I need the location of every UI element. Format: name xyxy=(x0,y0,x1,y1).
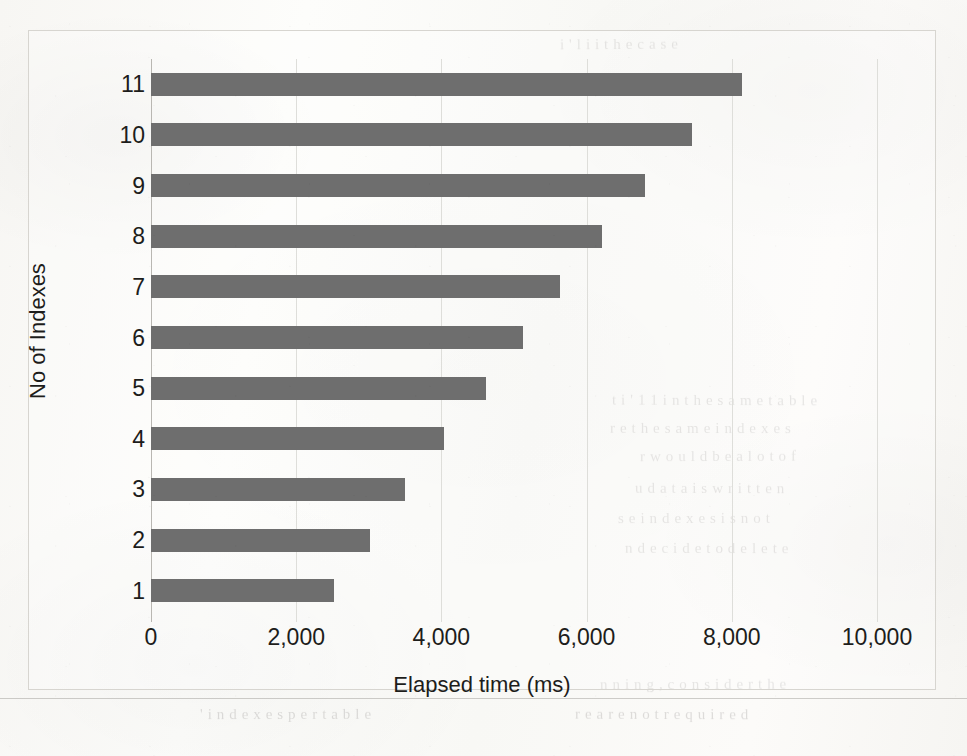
x-axis-tick-label: 4,000 xyxy=(413,624,471,651)
bar-row xyxy=(151,478,877,501)
bar-row xyxy=(151,529,877,552)
bar xyxy=(151,377,486,400)
y-axis-tick-labels: 1234567891011 xyxy=(73,59,145,616)
x-axis-title: Elapsed time (ms) xyxy=(29,672,935,698)
bleed-through-text: r e a r e n o t r e q u i r e d xyxy=(575,706,749,724)
bar xyxy=(151,427,444,450)
gridline-10000 xyxy=(877,59,878,622)
bar-row xyxy=(151,579,877,602)
bar-row xyxy=(151,377,877,400)
x-axis-tick-label: 0 xyxy=(145,624,158,651)
plot-area xyxy=(151,59,877,616)
bar-row xyxy=(151,326,877,349)
y-axis-tick-label: 2 xyxy=(85,527,145,554)
page-separator-rule xyxy=(0,698,967,699)
bar xyxy=(151,326,523,349)
scanned-page: i ' l i i t h e c a s et i ' 1 1 i n t h… xyxy=(0,0,967,756)
y-axis-tick-label: 6 xyxy=(85,324,145,351)
bar xyxy=(151,529,370,552)
x-axis-tick-label: 6,000 xyxy=(558,624,616,651)
y-axis-tick-label: 8 xyxy=(85,223,145,250)
bar xyxy=(151,579,334,602)
y-axis-tick-label: 1 xyxy=(85,577,145,604)
y-axis-tick-label: 9 xyxy=(85,172,145,199)
x-axis-tick-label: 8,000 xyxy=(703,624,761,651)
y-axis-tick-label: 10 xyxy=(85,121,145,148)
bar xyxy=(151,275,560,298)
bar xyxy=(151,225,602,248)
y-axis-tick-label: 3 xyxy=(85,476,145,503)
bar-row xyxy=(151,73,877,96)
bar xyxy=(151,174,645,197)
chart-frame: 1234567891011 02,0004,0006,0008,00010,00… xyxy=(28,30,936,690)
bar-row xyxy=(151,123,877,146)
y-axis-title: No of Indexes xyxy=(25,231,51,431)
y-axis-tick-label: 7 xyxy=(85,273,145,300)
x-axis-tick-label: 10,000 xyxy=(842,624,912,651)
bar xyxy=(151,123,692,146)
x-axis-tick-label: 2,000 xyxy=(267,624,325,651)
bar-row xyxy=(151,225,877,248)
x-axis-tick-labels: 02,0004,0006,0008,00010,000 xyxy=(151,624,877,658)
y-axis-tick-label: 4 xyxy=(85,425,145,452)
y-axis-tick-label: 5 xyxy=(85,375,145,402)
bar-row xyxy=(151,427,877,450)
bar-row xyxy=(151,174,877,197)
bar-row xyxy=(151,275,877,298)
y-axis-tick-label: 11 xyxy=(85,71,145,98)
bar xyxy=(151,478,405,501)
bar-series xyxy=(151,59,877,616)
bar xyxy=(151,73,742,96)
bleed-through-text: ' i n d e x e s p e r t a b l e xyxy=(200,706,372,723)
